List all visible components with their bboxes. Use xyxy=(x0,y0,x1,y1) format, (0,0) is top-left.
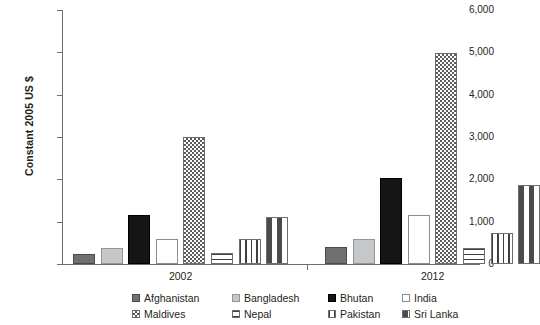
bar-maldives-2002 xyxy=(183,137,205,264)
bar-pakistan-2002 xyxy=(239,239,261,264)
y-axis-title: Constant 2005 US $ xyxy=(23,31,35,221)
legend-label-india: India xyxy=(414,292,437,304)
bar-nepal-2002 xyxy=(211,253,233,264)
bar-maldives-2012 xyxy=(435,53,457,264)
bar-india-2012 xyxy=(408,215,430,264)
legend-item-india[interactable]: India xyxy=(402,292,472,304)
y-tick-mark xyxy=(57,179,62,180)
legend-swatch-nepal xyxy=(232,310,240,318)
y-tick-mark xyxy=(57,222,62,223)
legend-swatch-india xyxy=(402,294,410,302)
x-tick-label: 2002 xyxy=(151,270,211,282)
legend-label-nepal: Nepal xyxy=(244,308,271,320)
y-tick-mark xyxy=(57,95,62,96)
legend-swatch-afghanistan xyxy=(132,294,140,302)
legend-row-2: Maldives Nepal Pakistan Sri Lanka xyxy=(132,306,472,322)
bars-layer xyxy=(63,10,480,264)
legend-item-maldives[interactable]: Maldives xyxy=(132,308,232,320)
y-tick-mark xyxy=(57,264,62,265)
legend-swatch-bhutan xyxy=(328,294,336,302)
legend-swatch-maldives xyxy=(132,310,140,318)
legend-label-bangladesh: Bangladesh xyxy=(244,292,299,304)
bar-srilanka-2002 xyxy=(266,217,288,264)
bar-bhutan-2002 xyxy=(128,215,150,264)
legend-item-bhutan[interactable]: Bhutan xyxy=(328,292,402,304)
legend-item-nepal[interactable]: Nepal xyxy=(232,308,328,320)
bar-bangladesh-2012 xyxy=(353,239,375,264)
legend-item-bangladesh[interactable]: Bangladesh xyxy=(232,292,328,304)
legend-label-bhutan: Bhutan xyxy=(340,292,373,304)
bar-india-2002 xyxy=(156,239,178,264)
legend: Afghanistan Bangladesh Bhutan India Mald… xyxy=(132,290,472,322)
legend-item-srilanka[interactable]: Sri Lanka xyxy=(402,308,472,320)
bar-pakistan-2012 xyxy=(491,233,513,264)
bar-bangladesh-2002 xyxy=(101,248,123,264)
legend-label-afghanistan: Afghanistan xyxy=(144,292,199,304)
bar-bhutan-2012 xyxy=(380,178,402,264)
x-tick-mark xyxy=(307,265,308,270)
legend-swatch-pakistan xyxy=(328,310,336,318)
legend-label-pakistan: Pakistan xyxy=(340,308,380,320)
bar-nepal-2012 xyxy=(463,248,485,264)
bar-afghanistan-2002 xyxy=(73,254,95,264)
y-tick-mark xyxy=(57,10,62,11)
bar-afghanistan-2012 xyxy=(325,247,347,264)
x-axis-line xyxy=(62,264,480,265)
legend-swatch-bangladesh xyxy=(232,294,240,302)
y-tick-mark xyxy=(57,137,62,138)
y-tick-mark xyxy=(57,52,62,53)
legend-item-pakistan[interactable]: Pakistan xyxy=(328,308,402,320)
x-tick-label: 2012 xyxy=(403,270,463,282)
legend-row-1: Afghanistan Bangladesh Bhutan India xyxy=(132,290,472,306)
legend-label-srilanka: Sri Lanka xyxy=(414,308,458,320)
legend-swatch-srilanka xyxy=(402,310,410,318)
bar-srilanka-2012 xyxy=(518,185,540,264)
legend-item-afghanistan[interactable]: Afghanistan xyxy=(132,292,232,304)
legend-label-maldives: Maldives xyxy=(144,308,185,320)
